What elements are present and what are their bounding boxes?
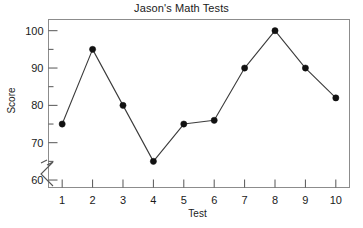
data-point-marker <box>242 65 248 71</box>
y-axis-tick-label: 80 <box>31 99 43 111</box>
x-axis-tick-label: 1 <box>59 194 65 206</box>
x-axis-tick-label: 6 <box>211 194 217 206</box>
data-point-marker <box>211 117 217 123</box>
x-axis-tick-label: 3 <box>120 194 126 206</box>
chart-figure: Jason's Math Tests Score Test 6070809010… <box>0 0 363 228</box>
x-axis-tick-labels: 12345678910 <box>59 194 342 206</box>
data-point-marker <box>272 28 278 34</box>
plot-frame <box>49 20 350 188</box>
y-axis-tick-label: 100 <box>25 25 43 37</box>
data-point-marker <box>302 65 308 71</box>
x-axis-tick-label: 5 <box>181 194 187 206</box>
y-axis-tick-labels: 60708090100 <box>25 25 43 186</box>
y-axis-tick-label: 60 <box>31 174 43 186</box>
data-point-marker <box>181 121 187 127</box>
data-point-marker <box>89 46 95 52</box>
data-point-marker <box>150 158 156 164</box>
x-axis-tick-label: 7 <box>242 194 248 206</box>
data-point-marker <box>333 95 339 101</box>
data-point-marker <box>59 121 65 127</box>
plot-area: 60708090100 12345678910 <box>0 0 363 228</box>
x-axis-tick-label: 10 <box>330 194 342 206</box>
x-axis-tick-label: 4 <box>150 194 156 206</box>
x-axis-tick-label: 2 <box>90 194 96 206</box>
y-axis-tick-label: 90 <box>31 62 43 74</box>
x-axis-tick-label: 8 <box>272 194 278 206</box>
x-axis-tick-label: 9 <box>302 194 308 206</box>
data-point-marker <box>120 102 126 108</box>
y-axis-tick-label: 70 <box>31 137 43 149</box>
